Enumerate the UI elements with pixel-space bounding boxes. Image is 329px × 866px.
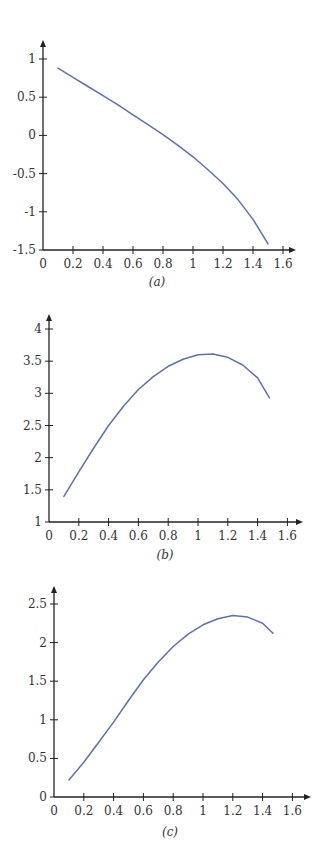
x-tick-label: 1.4 <box>248 529 267 543</box>
chart-caption: (c) <box>162 825 178 839</box>
y-tick-label: 1.5 <box>23 483 42 497</box>
x-tick-label: 1.2 <box>223 804 242 818</box>
figure: -1.5-1-0.500.5100.20.40.60.811.21.41.6(a… <box>0 0 329 866</box>
y-tick-label: 3 <box>34 386 42 400</box>
y-tick-label: 1 <box>39 713 47 727</box>
x-axis-arrow-icon <box>296 519 303 525</box>
x-tick-label: 0.4 <box>104 804 123 818</box>
x-tick-label: 1.2 <box>213 257 232 271</box>
x-axis-arrow-icon <box>289 247 296 253</box>
y-tick-label: 0.5 <box>17 90 36 104</box>
data-line-curve-a <box>58 68 268 244</box>
x-tick-label: 0 <box>39 257 47 271</box>
y-tick-label: 3.5 <box>23 354 42 368</box>
y-tick-label: 2 <box>39 636 47 650</box>
y-tick-label: 0.5 <box>28 751 47 765</box>
data-line-curve-b <box>64 354 270 496</box>
x-tick-label: 1.2 <box>218 529 237 543</box>
chart-caption: (b) <box>156 548 173 562</box>
y-axis-arrow-icon <box>40 40 46 47</box>
x-tick-label: 0.8 <box>159 529 178 543</box>
chart-c: 00.511.522.500.20.40.60.811.21.41.6(c) <box>28 586 311 839</box>
x-axis-arrow-icon <box>304 794 311 800</box>
x-tick-label: 0.8 <box>153 257 172 271</box>
x-tick-label: 0.2 <box>69 529 88 543</box>
x-tick-label: 0.6 <box>123 257 142 271</box>
y-tick-label: 1.5 <box>28 674 47 688</box>
y-tick-label: 0 <box>39 790 47 804</box>
data-line-curve-c <box>69 616 273 780</box>
x-tick-label: 1 <box>189 257 197 271</box>
x-tick-label: 0.8 <box>164 804 183 818</box>
x-tick-label: 0 <box>50 804 58 818</box>
x-tick-label: 1.6 <box>283 804 302 818</box>
chart-a: -1.5-1-0.500.5100.20.40.60.811.21.41.6(a… <box>13 40 296 289</box>
y-tick-label: 1 <box>34 515 42 529</box>
chart-b: 11.522.533.5400.20.40.60.811.21.41.6(b) <box>23 314 303 562</box>
x-tick-label: 1.4 <box>243 257 262 271</box>
x-tick-label: 1 <box>199 804 207 818</box>
y-axis-arrow-icon <box>51 586 57 593</box>
y-tick-label: 1 <box>28 52 36 66</box>
x-tick-label: 1.4 <box>253 804 272 818</box>
x-tick-label: 0.2 <box>74 804 93 818</box>
y-tick-label: 2.5 <box>28 597 47 611</box>
x-tick-label: 0.2 <box>63 257 82 271</box>
x-tick-label: 0.6 <box>129 529 148 543</box>
y-tick-label: -1 <box>24 205 36 219</box>
y-tick-label: 0 <box>28 128 36 142</box>
chart-caption: (a) <box>149 275 166 289</box>
y-axis-arrow-icon <box>46 314 52 321</box>
x-tick-label: 0 <box>45 529 53 543</box>
y-tick-label: -0.5 <box>13 167 36 181</box>
x-tick-label: 0.4 <box>93 257 112 271</box>
x-tick-label: 1 <box>194 529 202 543</box>
y-tick-label: 2.5 <box>23 419 42 433</box>
x-tick-label: 0.6 <box>134 804 153 818</box>
y-tick-label: 2 <box>34 451 42 465</box>
y-tick-label: 4 <box>34 322 42 336</box>
x-tick-label: 0.4 <box>99 529 118 543</box>
y-tick-label: -1.5 <box>13 243 36 257</box>
x-tick-label: 1.6 <box>273 257 292 271</box>
x-tick-label: 1.6 <box>278 529 297 543</box>
